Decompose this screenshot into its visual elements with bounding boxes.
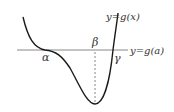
curve-g-x: [23, 13, 118, 104]
curve-label: y=g(x): [105, 11, 140, 22]
graph-figure: y=g(x) y=g(a) α β γ: [0, 0, 174, 112]
line-label: y=g(a): [129, 45, 164, 56]
gamma-label: γ: [114, 52, 121, 65]
beta-label: β: [91, 36, 98, 49]
alpha-label: α: [42, 51, 50, 64]
